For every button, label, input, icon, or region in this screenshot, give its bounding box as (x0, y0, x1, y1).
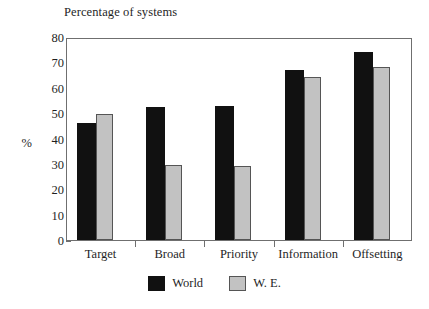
y-tick-label: 60 (0, 82, 64, 96)
x-tick-label: Broad (135, 247, 204, 262)
bar-pair (354, 39, 390, 240)
bar-group (205, 39, 274, 240)
bar-we (234, 166, 251, 240)
x-tick-label: Offsetting (343, 247, 412, 262)
gray-square-swatch (229, 276, 246, 291)
legend-item: W. E. (229, 276, 281, 291)
bar-chart: Percentage of systems % 8070605040302010… (0, 0, 429, 309)
x-tick-mark (204, 241, 205, 247)
y-tick-label: 70 (0, 56, 64, 70)
x-tick-label: Priority (204, 247, 273, 262)
y-tick-label: 30 (0, 158, 64, 172)
y-tick-mark (66, 241, 71, 242)
y-tick-label: 80 (0, 31, 64, 45)
bar-pair (77, 39, 113, 240)
x-tick-mark (274, 241, 275, 247)
chart-title: Percentage of systems (64, 5, 177, 20)
bar-we (96, 114, 113, 240)
legend-item: World (148, 276, 203, 291)
bar-world (354, 52, 373, 240)
plot-area (66, 38, 412, 241)
y-tick-label: 40 (0, 133, 64, 147)
bar-world (146, 107, 165, 240)
x-tick-mark (135, 241, 136, 247)
x-tick-label: Target (66, 247, 135, 262)
bar-pair (146, 39, 182, 240)
y-tick-label: 50 (0, 107, 64, 121)
bar-group (344, 39, 413, 240)
x-tick-label: Information (274, 247, 343, 262)
y-tick-label: 10 (0, 209, 64, 223)
black-square-swatch (148, 276, 165, 291)
bar-we (165, 165, 182, 240)
y-tick-label: 0 (0, 234, 64, 248)
plot-inner (67, 39, 411, 240)
bar-we (304, 77, 321, 240)
bar-world (77, 123, 96, 240)
legend-label: World (172, 276, 203, 291)
chart-legend: WorldW. E. (0, 276, 429, 291)
bar-pair (215, 39, 251, 240)
x-tick-mark (343, 241, 344, 247)
bar-group (67, 39, 136, 240)
bar-world (215, 106, 234, 240)
y-tick-label: 20 (0, 183, 64, 197)
bar-group (136, 39, 205, 240)
bar-we (373, 67, 390, 240)
bar-world (285, 70, 304, 240)
bar-group (275, 39, 344, 240)
bar-pair (285, 39, 321, 240)
legend-label: W. E. (253, 276, 281, 291)
